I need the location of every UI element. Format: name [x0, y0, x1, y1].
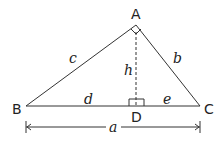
vertex-label-a: A [131, 6, 141, 22]
vertex-label-d: D [131, 109, 142, 125]
side-label-c: c [69, 50, 77, 66]
side-label-b: b [173, 50, 182, 66]
vertex-label-c: C [204, 101, 214, 117]
altitude-label-h: h [124, 62, 133, 78]
right-triangle-diagram: A B C D c b h d e a [0, 0, 224, 142]
vertex-label-b: B [12, 101, 22, 117]
segment-label-d: d [84, 91, 93, 107]
side-label-a: a [109, 119, 117, 135]
segment-label-e: e [163, 91, 171, 107]
